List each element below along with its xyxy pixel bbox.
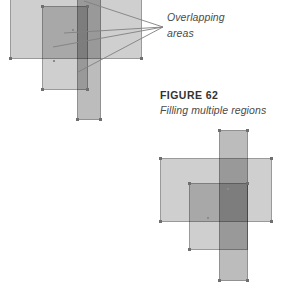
- figure-title: Filling multiple regions: [160, 103, 280, 118]
- handle-top-square-mid-left[interactable]: [53, 60, 55, 62]
- handle-top-strip-bottom-right[interactable]: [99, 118, 102, 121]
- callout-label-line-1: Overlapping: [167, 9, 279, 25]
- handle-top-square-top-right[interactable]: [86, 5, 89, 8]
- handle-top-square-bottom-right[interactable]: [86, 88, 89, 91]
- handle-bottom-square-bottom-left[interactable]: [188, 248, 191, 251]
- top-diagram-shape-layer: [0, 0, 160, 126]
- handle-bottom-wide-rect-top-left[interactable]: [159, 157, 162, 160]
- bottom-diagram-shape-layer: [145, 125, 285, 289]
- callout-label: Overlapping areas: [167, 9, 279, 41]
- handle-top-wide-rect-bottom-left[interactable]: [9, 57, 12, 60]
- handle-top-square-bottom-left[interactable]: [41, 88, 44, 91]
- handle-bottom-strip-bottom-left[interactable]: [218, 279, 221, 282]
- handle-bottom-square-mid-top[interactable]: [227, 188, 229, 190]
- figure-number: FIGURE 62: [160, 89, 280, 102]
- top-square[interactable]: [42, 6, 88, 90]
- handle-bottom-wide-rect-top-right[interactable]: [270, 157, 273, 160]
- handle-bottom-strip-top-right[interactable]: [246, 129, 249, 132]
- handle-top-wide-rect-bottom-right[interactable]: [140, 57, 143, 60]
- bottom-diagram: [145, 125, 285, 289]
- handle-bottom-strip-top-left[interactable]: [218, 129, 221, 132]
- top-diagram: [0, 0, 160, 126]
- figure-caption: FIGURE 62 Filling multiple regions: [160, 89, 280, 118]
- handle-bottom-wide-rect-bottom-right[interactable]: [270, 220, 273, 223]
- handle-bottom-square-top-left[interactable]: [188, 182, 191, 185]
- handle-top-strip-bottom-left[interactable]: [76, 118, 79, 121]
- handle-bottom-square-mid-low[interactable]: [207, 217, 209, 219]
- handle-top-square-top-left[interactable]: [41, 5, 44, 8]
- handle-bottom-wide-rect-bottom-left[interactable]: [159, 220, 162, 223]
- figure-page: Overlapping areas FIGURE 62 Filling mult…: [0, 0, 285, 289]
- handle-bottom-strip-bottom-right[interactable]: [246, 279, 249, 282]
- handle-bottom-square-top-right[interactable]: [246, 182, 249, 185]
- callout-label-line-2: areas: [167, 25, 279, 41]
- bottom-square[interactable]: [189, 183, 248, 250]
- handle-top-square-mid-right[interactable]: [72, 29, 74, 31]
